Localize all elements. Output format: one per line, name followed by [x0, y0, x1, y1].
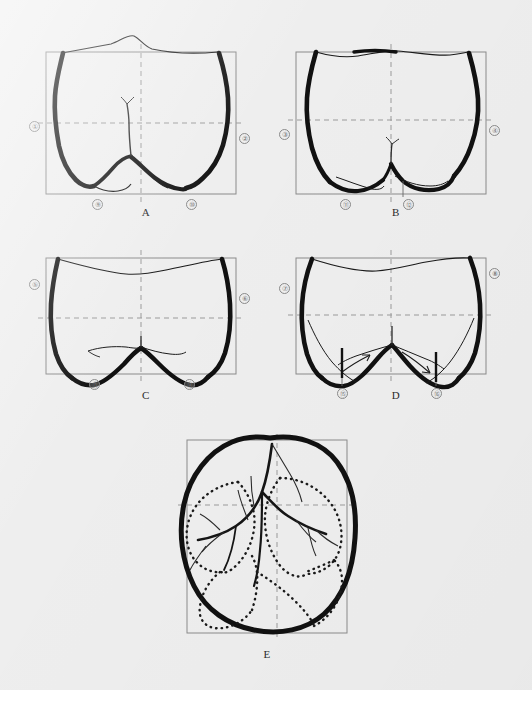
panel-e-supplemental-groove-8 — [308, 528, 316, 556]
panel-d-distolingual-cusp — [392, 345, 459, 387]
ref-number-13[interactable]: ⑬ — [89, 379, 100, 390]
panel-c-marginal-ridge-line — [88, 347, 141, 351]
panel-c-mesiolingual-cusp — [141, 348, 208, 385]
panel-c-occlusal-curve — [58, 259, 222, 274]
ref-number-9[interactable]: ⑨ — [92, 199, 103, 210]
ref-number-3[interactable]: ③ — [279, 129, 290, 140]
ref-number-15[interactable]: ⑮ — [337, 388, 348, 399]
panel-e-supplemental-groove-2 — [251, 476, 254, 506]
panel-e-supplemental-groove-4 — [202, 532, 224, 552]
figure-page: ① ② ⑨ ⑩ ③ ④ ⑪ ⑫ ⑤ ⑥ ⑬ ⑭ ⑦ ⑧ ⑮ ⑯ A B C D … — [0, 0, 532, 690]
panel-e-supplemental-groove-5 — [200, 514, 220, 530]
ref-number-4[interactable]: ④ — [489, 125, 500, 136]
panel-c-ridge-branch — [88, 351, 100, 357]
ref-number-6[interactable]: ⑥ — [239, 293, 250, 304]
ref-number-14[interactable]: ⑭ — [184, 379, 195, 390]
panel-e-cusp-outline-distolingual — [265, 478, 306, 576]
panel-e-supplemental-groove-6 — [296, 520, 316, 542]
panel-e-supplemental-groove-7 — [316, 530, 338, 546]
ref-number-10[interactable]: ⑩ — [186, 199, 197, 210]
ref-number-11[interactable]: ⑪ — [340, 199, 351, 210]
panel-e-cusp-outline-mesiobuccal — [187, 482, 238, 572]
panel-c-mesiobuccal-cusp — [72, 348, 141, 385]
ref-number-5[interactable]: ⑤ — [29, 279, 40, 290]
panel-caption-d: D — [381, 389, 411, 401]
ref-number-16[interactable]: ⑯ — [431, 388, 442, 399]
panel-e-cusp-outline-distal-lower-right — [257, 572, 314, 626]
panel-e-drawing — [120, 420, 420, 670]
ref-number-8[interactable]: ⑧ — [489, 268, 500, 279]
panel-e-central-fissure-branch — [262, 492, 326, 534]
panel-d-crown-outline-left — [302, 259, 322, 378]
panel-d-distobuccal-cusp — [322, 345, 392, 386]
panel-d-crown-outline-right — [459, 258, 480, 378]
ref-number-2[interactable]: ② — [239, 133, 250, 144]
panel-caption-c: C — [131, 389, 161, 401]
panel-caption-a: A — [131, 206, 161, 218]
ref-number-7[interactable]: ⑦ — [279, 283, 290, 294]
panel-caption-e: E — [252, 648, 282, 660]
panel-caption-b: B — [381, 206, 411, 218]
panel-e-cusp-outline-distobuccal — [280, 478, 342, 574]
panel-e-occlusal — [120, 420, 420, 670]
ref-number-1[interactable]: ① — [29, 121, 40, 132]
